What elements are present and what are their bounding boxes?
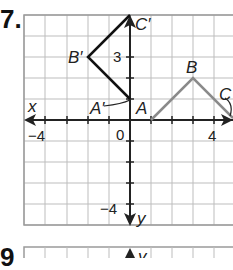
x-axis-label: x [27,97,37,116]
point-label-a-prime: A′ [89,99,105,118]
origin-label: 0 [116,126,124,143]
y-axis-label: y [136,209,147,228]
tick-label-y-3: 3 [113,48,121,65]
next-graph-y-arrow-icon [125,248,135,258]
point-label-b-prime: B′ [68,48,83,67]
next-graph-y-label: y [137,247,148,258]
point-label-c: C [219,85,232,104]
tick-label-x-4: 4 [208,127,216,144]
point-label-a: A [135,99,147,118]
tick-label-y-neg4: −4 [100,200,117,217]
rotation-arc-a [104,100,130,106]
point-label-b: B [186,58,197,77]
tick-label-x-neg4: −4 [28,127,45,144]
x-axis [30,116,233,124]
point-label-c-prime: C′ [135,15,151,34]
